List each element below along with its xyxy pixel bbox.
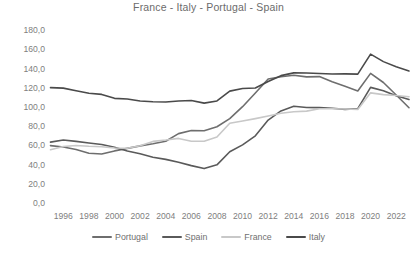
x-tick-label: 2014 — [284, 211, 303, 221]
x-tick-label: 2012 — [259, 211, 278, 221]
x-tick-label: 2018 — [335, 211, 354, 221]
x-tick-label: 2008 — [207, 211, 226, 221]
series-lines — [51, 54, 410, 168]
y-tick-label: 40,0 — [28, 160, 45, 170]
x-tick-label: 2006 — [182, 211, 201, 221]
x-tick-label: 2000 — [105, 211, 124, 221]
y-tick-label: 120,0 — [23, 83, 45, 93]
chart-svg: 0,020,040,060,080,0100,0120,0140,0160,01… — [0, 0, 417, 264]
series-line-italy — [51, 54, 410, 103]
x-tick-label: 1996 — [54, 211, 73, 221]
x-tick-label: 2002 — [131, 211, 150, 221]
legend-item-italy[interactable]: Italy — [286, 232, 325, 242]
legend-item-portugal[interactable]: Portugal — [92, 232, 148, 242]
legend-label: Italy — [309, 232, 325, 242]
series-line-portugal — [51, 73, 410, 154]
y-tick-label: 160,0 — [23, 44, 45, 54]
y-axis-tick-labels: 0,020,040,060,080,0100,0120,0140,0160,01… — [23, 25, 45, 208]
y-tick-label: 60,0 — [28, 140, 45, 150]
y-tick-label: 80,0 — [28, 121, 45, 131]
series-line-france — [51, 93, 410, 150]
legend-label: France — [244, 232, 271, 242]
x-tick-label: 2004 — [156, 211, 175, 221]
x-tick-label: 2022 — [387, 211, 406, 221]
y-tick-label: 20,0 — [28, 179, 45, 189]
x-tick-label: 2016 — [310, 211, 329, 221]
y-tick-label: 100,0 — [23, 102, 45, 112]
plot-area: 0,020,040,060,080,0100,0120,0140,0160,01… — [0, 0, 417, 264]
chart-legend: PortugalSpainFranceItaly — [0, 232, 417, 242]
legend-swatch-france — [221, 236, 241, 238]
legend-swatch-portugal — [92, 236, 112, 238]
x-tick-label: 1998 — [79, 211, 98, 221]
y-tick-label: 180,0 — [23, 25, 45, 35]
chart-container: France - Italy - Portugal - Spain 0,020,… — [0, 0, 417, 264]
y-tick-label: 0,0 — [33, 198, 45, 208]
x-tick-label: 2020 — [361, 211, 380, 221]
series-line-spain — [51, 87, 410, 168]
legend-label: Spain — [185, 232, 208, 242]
y-tick-label: 140,0 — [23, 64, 45, 74]
legend-swatch-spain — [162, 236, 182, 238]
x-axis-tick-labels: 1996199820002002200420062008201020122014… — [54, 211, 406, 221]
x-tick-label: 2010 — [233, 211, 252, 221]
legend-item-france[interactable]: France — [221, 232, 271, 242]
legend-label: Portugal — [115, 232, 148, 242]
legend-item-spain[interactable]: Spain — [162, 232, 208, 242]
legend-swatch-italy — [286, 236, 306, 238]
